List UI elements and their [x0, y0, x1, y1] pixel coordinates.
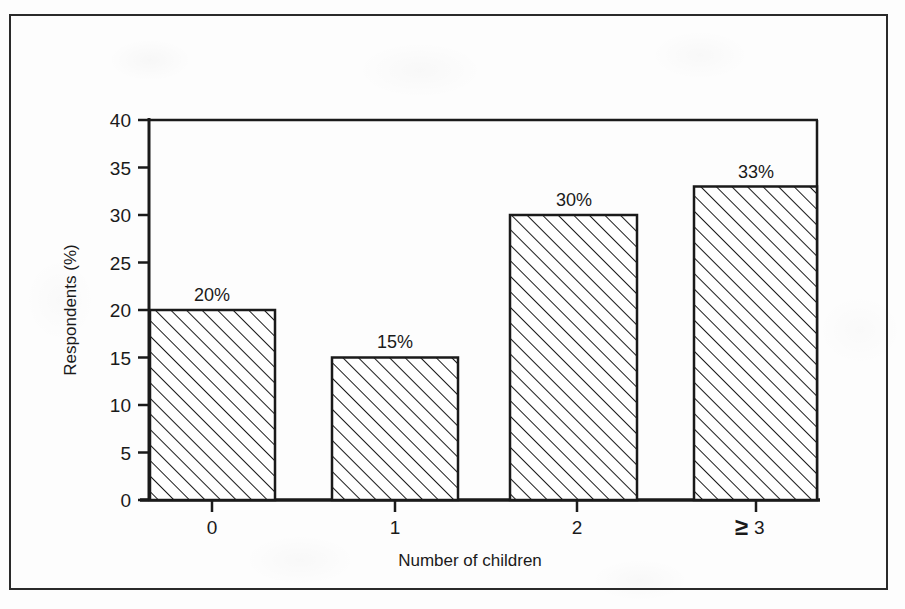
x-cat-label-3-number: 3 — [754, 517, 765, 538]
bar-3 — [694, 187, 817, 501]
y-axis-title: Respondents (%) — [61, 244, 80, 375]
y-tick-label-25: 25 — [110, 253, 131, 274]
y-tick-label-30: 30 — [110, 205, 131, 226]
y-tick-label-35: 35 — [110, 158, 131, 179]
y-tick-label-5: 5 — [120, 443, 131, 464]
y-axis-ticks — [138, 120, 149, 500]
bar-chart: 0 5 10 15 20 25 30 35 40 Respondents (%)… — [0, 0, 905, 609]
y-tick-label-0: 0 — [120, 490, 131, 511]
bar-label-3: 33% — [738, 162, 774, 182]
y-tick-label-15: 15 — [110, 348, 131, 369]
x-axis-tick-labels: 0 1 2 ≥ 3 — [207, 513, 765, 540]
bar-data-labels: 20% 15% 30% 33% — [194, 162, 774, 352]
bar-0 — [150, 310, 275, 500]
bar-label-2: 30% — [556, 190, 592, 210]
bar-1 — [332, 358, 458, 501]
y-tick-label-20: 20 — [110, 300, 131, 321]
x-cat-label-2: 2 — [572, 517, 583, 538]
x-cat-label-3-ge-symbol: ≥ — [735, 513, 748, 540]
bar-label-1: 15% — [377, 332, 413, 352]
y-tick-label-10: 10 — [110, 395, 131, 416]
x-cat-label-1: 1 — [390, 517, 401, 538]
y-axis-tick-labels: 0 5 10 15 20 25 30 35 40 — [110, 110, 131, 511]
bars-group — [150, 187, 817, 501]
x-axis-title: Number of children — [398, 551, 542, 570]
bar-label-0: 20% — [194, 285, 230, 305]
x-cat-label-0: 0 — [207, 517, 218, 538]
y-tick-label-40: 40 — [110, 110, 131, 131]
x-axis-ticks — [212, 500, 756, 512]
bar-2 — [510, 215, 637, 500]
